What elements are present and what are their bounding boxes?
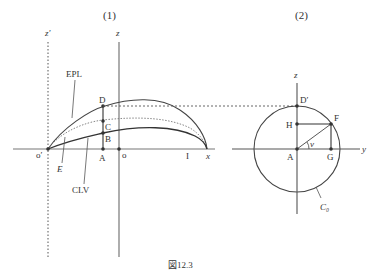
label-b: B — [105, 134, 111, 144]
x-axis-label: x — [205, 151, 210, 161]
label-o: o — [122, 150, 127, 160]
point-o-prime — [46, 147, 50, 151]
panel-2-y-label: y — [361, 144, 366, 154]
c0-leader — [316, 187, 321, 198]
segment-af — [297, 124, 331, 149]
panel-1-title: (1) — [103, 9, 116, 22]
region-e-label: E — [56, 164, 63, 174]
label-a2: A — [287, 152, 294, 162]
epl-label: EPL — [66, 69, 82, 79]
point-o — [117, 147, 121, 151]
diagram-canvas: (1) (2) z′ z x D C B A o o′ I EPL E CLV … — [0, 0, 377, 270]
panel-2-z-label: z — [293, 70, 298, 80]
clv-curve — [48, 128, 207, 149]
region-e-leader — [62, 137, 65, 163]
point-a2 — [295, 147, 299, 151]
c0-label: C₀ — [320, 202, 329, 212]
epl-leader — [72, 80, 75, 118]
point-f — [329, 122, 333, 126]
clv-label: CLV — [72, 185, 90, 195]
point-g — [329, 147, 333, 151]
angle-nu-label: ν — [310, 139, 314, 149]
label-d: D — [99, 95, 106, 105]
z-prime-axis-label: z′ — [44, 28, 52, 38]
dotted-curve — [48, 118, 207, 149]
z-axis-label: z — [115, 28, 120, 38]
label-i: I — [186, 151, 189, 161]
point-a — [101, 147, 105, 151]
angle-arc — [307, 142, 309, 149]
label-h: H — [286, 120, 293, 130]
epl-curve — [48, 100, 207, 149]
label-c: C — [105, 122, 111, 132]
label-d-prime: D′ — [300, 95, 308, 105]
label-o-prime: o′ — [36, 150, 43, 160]
panel-2-title: (2) — [295, 9, 308, 22]
point-d-prime — [295, 104, 299, 108]
label-f: F — [334, 113, 339, 123]
label-g: G — [327, 152, 334, 162]
figure-caption: 図12.3 — [168, 260, 193, 270]
point-h — [295, 122, 299, 126]
label-a: A — [99, 153, 106, 163]
clv-leader — [84, 138, 88, 184]
